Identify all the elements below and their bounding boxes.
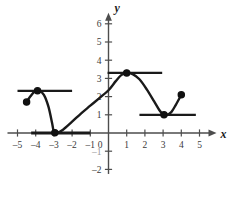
x-tick-label--5: –5 [12,140,23,150]
y-axis-label: y [113,1,121,15]
x-axis-arrowhead [209,130,217,137]
x-axis-tick-labels: –5–4–3–2–1012345 [12,140,202,150]
graph-figure: –5–4–3–2–1012345 654321–1–2 y x [0,0,245,198]
local-max-right [124,70,130,76]
x-tick-label-4: 4 [179,140,184,150]
y-axis-arrowhead [105,13,112,21]
y-tick-label--1: –1 [91,147,102,157]
x-tick-label-3: 3 [161,140,166,150]
local-min-left [52,130,58,136]
y-tick-label-5: 5 [97,37,102,47]
local-min-right [161,112,167,118]
endpoint-left [24,99,30,105]
y-tick-label-1: 1 [97,110,102,120]
x-tick-label--4: –4 [30,140,41,150]
x-tick-label--3: –3 [48,140,59,150]
endpoint-right [178,92,184,98]
y-tick-label-6: 6 [97,19,102,29]
x-axis-label: x [220,127,227,141]
x-tick-label--2: –2 [66,140,77,150]
function-curve [27,73,182,133]
y-tick-label-3: 3 [97,74,102,84]
local-max-left [34,88,40,94]
y-tick-label-4: 4 [97,56,102,66]
x-tick-label-2: 2 [143,140,148,150]
x-tick-label-1: 1 [124,140,129,150]
y-tick-label--2: –2 [91,165,102,175]
tangent-lines-group [18,73,196,133]
coordinate-plane: –5–4–3–2–1012345 654321–1–2 y x [0,0,245,198]
x-tick-label-5: 5 [197,140,202,150]
